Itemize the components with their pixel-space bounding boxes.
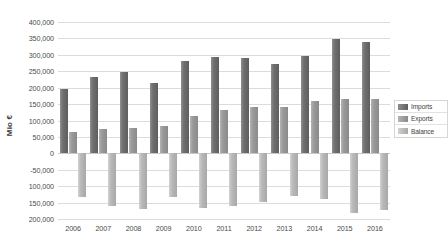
y-axis-tick-label: 100,000 (29, 116, 54, 125)
legend-item-exports[interactable]: Exports (395, 113, 447, 125)
y-axis-tick-label: 50,000 (33, 132, 54, 141)
bar-group (211, 22, 237, 219)
y-axis-tick-label: 350,000 (29, 34, 54, 43)
bar-balance-2013 (290, 153, 298, 196)
x-axis-tick-label: 2013 (277, 224, 293, 233)
y-axis-tick-label: 200,000 (29, 215, 54, 224)
y-axis-tick-labels: 400,000350,000300,000250,000200,000150,0… (14, 0, 56, 251)
bar-group (271, 22, 297, 219)
legend-swatch-exports (398, 116, 408, 122)
bar-group (150, 22, 176, 219)
plot-area (58, 22, 390, 219)
bar-balance-2016 (380, 153, 388, 209)
bar-imports-2006 (60, 89, 68, 154)
bar-exports-2010 (190, 116, 198, 153)
bar-exports-2006 (69, 132, 77, 153)
bar-imports-2010 (181, 61, 189, 153)
y-axis-tick-label: -50,000 (30, 165, 54, 174)
y-axis-tick-label: 150,000 (29, 198, 54, 207)
gridline (58, 219, 390, 220)
legend-item-balance[interactable]: Balance (395, 125, 447, 137)
y-axis-tick-label: 100,000 (29, 182, 54, 191)
bar-group (241, 22, 267, 219)
bar-group (90, 22, 116, 219)
bar-balance-2006 (78, 153, 86, 197)
bar-balance-2012 (259, 153, 267, 202)
x-axis-tick-label: 2015 (337, 224, 353, 233)
bar-balance-2011 (229, 153, 237, 205)
bar-exports-2011 (220, 110, 228, 154)
bar-group (60, 22, 86, 219)
bar-series-layer (58, 22, 390, 219)
x-axis-tick-label: 2006 (65, 224, 81, 233)
bar-imports-2014 (301, 56, 309, 153)
bar-chart: Mio € 400,000350,000300,000250,000200,00… (0, 0, 448, 251)
x-axis-tick-label: 2007 (95, 224, 111, 233)
legend-item-imports[interactable]: Imports (395, 101, 447, 113)
bar-exports-2015 (341, 99, 349, 154)
bar-balance-2008 (139, 153, 147, 209)
bar-imports-2012 (241, 58, 249, 153)
bar-imports-2007 (90, 77, 98, 154)
bar-exports-2013 (280, 107, 288, 154)
bar-group (120, 22, 146, 219)
x-axis-tick-label: 2008 (126, 224, 142, 233)
bar-imports-2013 (271, 64, 279, 153)
y-axis-tick-label: 0 (50, 149, 54, 158)
bar-exports-2016 (371, 99, 379, 154)
legend-label-exports: Exports (411, 115, 433, 122)
x-axis-tick-label: 2009 (156, 224, 172, 233)
bar-group (181, 22, 207, 219)
bar-group (301, 22, 327, 219)
x-axis-tick-label: 2011 (216, 224, 231, 233)
legend-label-balance: Balance (411, 128, 434, 135)
bar-balance-2015 (350, 153, 358, 212)
bar-imports-2016 (362, 42, 370, 153)
bar-balance-2010 (199, 153, 207, 208)
chart-legend: ImportsExportsBalance (394, 100, 448, 138)
bar-imports-2009 (150, 83, 158, 154)
y-axis-tick-label: 400,000 (29, 18, 54, 27)
bar-imports-2011 (211, 57, 219, 153)
x-axis-tick-label: 2012 (246, 224, 262, 233)
bar-imports-2008 (120, 72, 128, 153)
bar-group (362, 22, 388, 219)
bar-exports-2007 (99, 129, 107, 153)
legend-label-imports: Imports (411, 103, 432, 110)
bar-exports-2014 (311, 101, 319, 153)
legend-swatch-balance (398, 128, 408, 134)
bar-balance-2007 (108, 153, 116, 206)
bar-exports-2012 (250, 107, 258, 153)
y-axis-tick-label: 150,000 (29, 100, 54, 109)
bar-imports-2015 (332, 39, 340, 153)
x-axis-tick-label: 2010 (186, 224, 202, 233)
y-axis-tick-label: 200,000 (29, 83, 54, 92)
x-axis-tick-label: 2016 (367, 224, 383, 233)
bar-exports-2008 (129, 128, 137, 154)
legend-swatch-imports (398, 104, 408, 110)
bar-exports-2009 (160, 126, 168, 153)
y-axis-tick-label: 250,000 (29, 67, 54, 76)
x-axis-tick-label: 2014 (307, 224, 323, 233)
x-axis-tick-labels: 2006200720082009201020112012201320142015… (58, 222, 390, 242)
bar-group (332, 22, 358, 219)
bar-balance-2014 (320, 153, 328, 198)
bar-balance-2009 (169, 153, 177, 196)
y-axis-tick-label: 300,000 (29, 50, 54, 59)
